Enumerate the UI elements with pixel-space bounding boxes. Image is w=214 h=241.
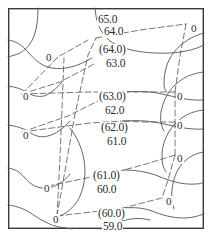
node-zero-label: 0 <box>190 23 198 34</box>
contour-lines <box>8 8 204 229</box>
contour-line <box>8 8 38 57</box>
contour-line <box>8 205 72 229</box>
node-zero-label: 0 <box>165 196 173 207</box>
ridge-line <box>124 155 175 170</box>
ridge-line <box>124 198 162 208</box>
contour-elevation-label: (64.0) <box>98 44 127 56</box>
contour-line <box>164 33 204 92</box>
node-zero-label: 0 <box>176 91 184 102</box>
node-zero-label: 0 <box>45 52 53 63</box>
ridge-line <box>162 155 175 198</box>
node-zero-label: 0 <box>22 130 30 141</box>
contour-elevation-label: (62.0) <box>100 122 129 134</box>
contour-elevation-label: 64.0 <box>103 26 124 38</box>
contour-line <box>8 168 70 188</box>
contour-elevation-label: 61.0 <box>106 136 127 148</box>
node-zero-label: 0 <box>176 153 184 164</box>
contour-line <box>124 170 204 184</box>
node-zero-label: 0 <box>22 91 30 102</box>
ridge-line <box>22 40 88 94</box>
contour-elevation-label: 65.0 <box>97 14 118 26</box>
contour-elevation-label: 59.0 <box>102 221 123 233</box>
ridge-line <box>22 63 96 94</box>
contour-elevation-label: (61.0) <box>92 170 121 182</box>
node-zero-label: 0 <box>52 214 60 225</box>
ridge-line <box>175 24 186 92</box>
contour-elevation-label: (63.0) <box>98 91 127 103</box>
node-zero-label: 0 <box>176 120 184 131</box>
contour-elevation-label: (60.0) <box>97 208 126 220</box>
contour-line <box>122 91 204 100</box>
contour-elevation-label: 60.0 <box>96 184 117 196</box>
contour-elevation-label: 63.0 <box>105 58 126 70</box>
contour-elevation-label: 62.0 <box>104 105 125 117</box>
node-zero-label: 0 <box>43 183 51 194</box>
contour-map-figure: 65.064.0(64.0)63.0(63.0)62.0(62.0)61.0(6… <box>0 0 214 241</box>
contour-line <box>60 128 85 216</box>
contour-line <box>124 208 204 218</box>
